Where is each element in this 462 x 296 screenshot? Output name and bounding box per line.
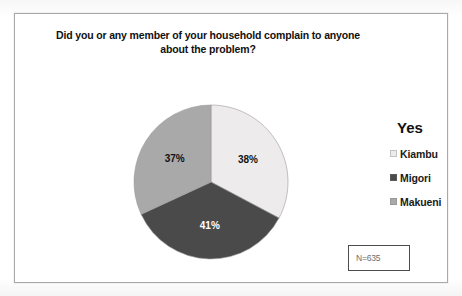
pie-chart: 38%41%37% bbox=[133, 104, 289, 260]
chart-legend: Yes Kiambu Migori Makueni bbox=[390, 120, 462, 219]
legend-label-makueni: Makueni bbox=[400, 196, 441, 208]
legend-item-makueni[interactable]: Makueni bbox=[390, 195, 462, 208]
chart-title: Did you or any member of your household … bbox=[43, 28, 373, 56]
legend-swatch-makueni bbox=[390, 198, 397, 205]
pie-slices bbox=[134, 105, 288, 259]
chart-frame: Did you or any member of your household … bbox=[14, 13, 448, 283]
legend-item-kiambu[interactable]: Kiambu bbox=[390, 147, 462, 160]
legend-item-migori[interactable]: Migori bbox=[390, 171, 462, 184]
chart-title-line-2: about the problem? bbox=[43, 42, 373, 56]
chart-title-line-1: Did you or any member of your household … bbox=[43, 28, 373, 42]
page-background: Did you or any member of your household … bbox=[0, 0, 462, 296]
pie-slice-label-makueni: 37% bbox=[165, 153, 185, 164]
sample-size-label: N=635 bbox=[356, 253, 380, 263]
pie-slice-label-kiambu: 38% bbox=[238, 154, 258, 165]
legend-label-migori: Migori bbox=[400, 172, 431, 184]
sample-size-box: N=635 bbox=[348, 245, 410, 271]
pie-chart-svg: 38%41%37% bbox=[133, 104, 289, 260]
legend-swatch-kiambu bbox=[390, 150, 397, 157]
legend-swatch-migori bbox=[390, 174, 397, 181]
legend-label-kiambu: Kiambu bbox=[400, 148, 438, 160]
legend-title: Yes bbox=[397, 120, 462, 136]
pie-slice-label-migori: 41% bbox=[200, 220, 220, 231]
